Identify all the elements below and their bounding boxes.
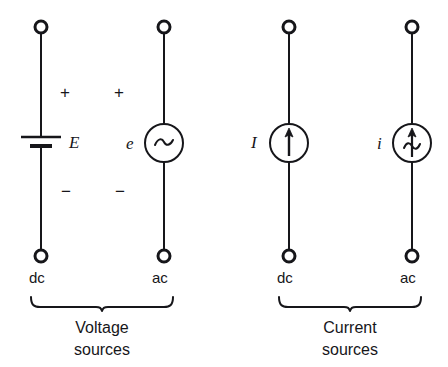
ac-voltage-label: e (126, 135, 134, 152)
current-sources-brace (279, 297, 421, 311)
dc-current-label: I (251, 134, 257, 151)
dc-voltage-label: E (69, 134, 79, 151)
tilde-glyph (155, 139, 173, 145)
current-sources-caption-line1: Current (300, 320, 400, 336)
ac-voltage-source-symbol (145, 21, 183, 262)
voltage-sources-brace (31, 297, 173, 311)
ac-current-label: i (377, 135, 382, 152)
voltage-sources-caption-line1: Voltage (52, 320, 152, 336)
ac-current-top-terminal (406, 21, 418, 33)
dc-voltage-type-label: dc (29, 270, 45, 285)
dc-voltage-plus-sign: + (60, 84, 70, 101)
ac-voltage-bottom-terminal (158, 250, 170, 262)
dc-voltage-source-symbol (21, 21, 61, 262)
current-sources-caption-line2: sources (300, 342, 400, 358)
dc-current-bottom-terminal (283, 250, 295, 262)
figure-canvas: + E − dc + e − ac I dc i ac Voltage sour… (0, 0, 448, 367)
dc-current-type-label: dc (277, 270, 293, 285)
dc-current-source-symbol (270, 21, 308, 262)
dc-voltage-bottom-terminal (35, 250, 47, 262)
ac-voltage-top-terminal (158, 21, 170, 33)
ac-current-bottom-terminal (406, 250, 418, 262)
dc-voltage-minus-sign: − (61, 183, 71, 200)
ac-voltage-type-label: ac (152, 270, 168, 285)
voltage-sources-caption-line2: sources (52, 342, 152, 358)
ac-voltage-plus-sign: + (114, 84, 124, 101)
dc-voltage-top-terminal (35, 21, 47, 33)
dc-current-top-terminal (283, 21, 295, 33)
ac-current-type-label: ac (400, 270, 416, 285)
ac-current-source-symbol (393, 21, 431, 262)
ac-voltage-minus-sign: − (115, 183, 125, 200)
